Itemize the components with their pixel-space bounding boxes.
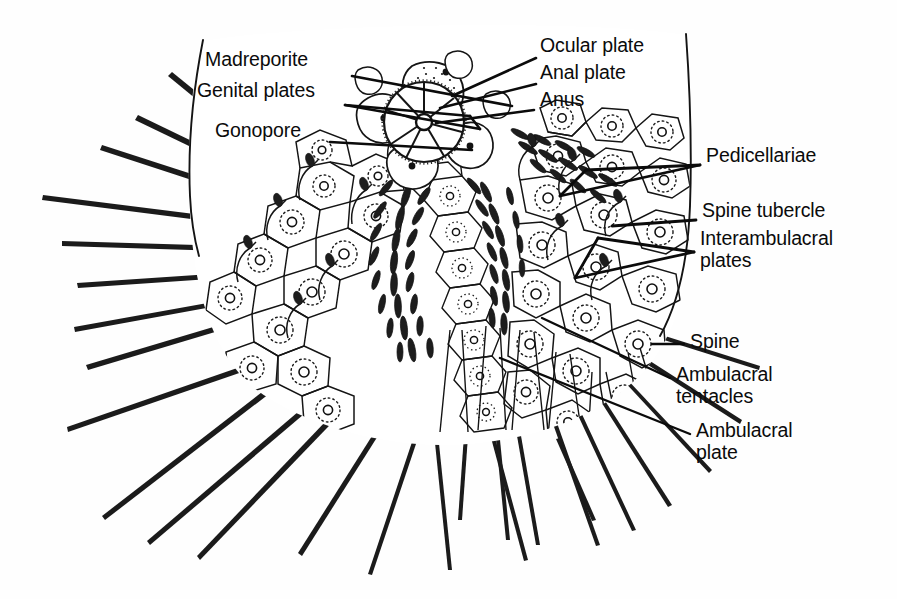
label-spine-tubercle: Spine tubercle <box>702 199 825 221</box>
label-anal-plate: Anal plate <box>540 61 626 83</box>
label-genital-plates: Genital plates <box>197 79 315 101</box>
label-pedicellariae: Pedicellariae <box>706 144 816 166</box>
label-ambulacral-plate: Ambulacral plate <box>696 419 793 463</box>
label-interambulacral-plates: Interambulacral plates <box>700 227 833 271</box>
sea-urchin-diagram: Madreporite Genital plates Gonopore Ocul… <box>0 0 897 599</box>
label-gonopore: Gonopore <box>215 119 301 141</box>
label-spine: Spine <box>690 330 739 352</box>
label-madreporite: Madreporite <box>205 48 308 70</box>
label-ocular-plate: Ocular plate <box>540 34 644 56</box>
anus <box>416 114 432 130</box>
label-anus: Anus <box>540 88 584 110</box>
diagram-artwork <box>0 0 897 599</box>
label-ambulacral-tentacles: Ambulacral tentacles <box>676 363 773 407</box>
